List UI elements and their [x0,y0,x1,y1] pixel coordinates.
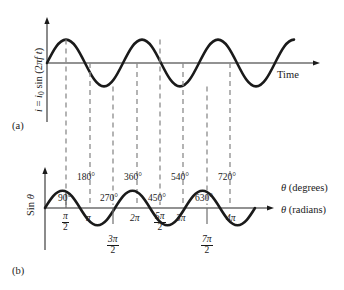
radian-denominator: 2 [154,222,166,233]
panel-b-y-axis-label: Sin θ [26,194,37,216]
panel-a-y-axis-arrowhead [44,17,49,24]
degree-label-630: 630° [195,194,213,204]
radian-label-pi-over-2: π 2 [62,212,69,233]
panel-b-x-axis-arrowhead [267,205,274,210]
panel-b-x-axis-label-degrees: θ (degrees) [281,183,328,194]
radian-label-3pi-over-2: 3π 2 [107,235,119,256]
radian-label-5pi-over-2: 5π 2 [154,212,166,233]
radian-denominator: 2 [201,245,213,256]
radian-numerator: 5π [154,212,166,222]
panel-b-x-axis-label-radians: θ (radians) [281,205,326,216]
radian-numerator: 7π [201,235,213,245]
panel-a-x-axis-label: Time [277,70,299,81]
panel-b-tag: (b) [12,266,24,277]
radian-label-4pi: 4π [226,214,236,224]
panel-a-tag: (a) [12,121,24,132]
degree-label-540: 540° [171,173,189,183]
degree-label-720: 720° [218,173,236,183]
degree-label-360: 360° [124,173,142,183]
radian-denominator: 2 [107,245,119,256]
radian-numerator: 3π [107,235,119,245]
degree-label-90: 90° [58,194,71,204]
panel-a-y-axis-label: i = i0 sin (2πf t) [34,48,46,112]
radian-label-2pi: 2π [130,214,140,224]
radian-label-7pi-over-2: 7π 2 [201,235,213,256]
radian-numerator: π [62,212,69,222]
figure-canvas [0,0,344,290]
panel-b-y-axis-arrowhead [42,167,47,174]
sine-waveform-figure: i = i0 sin (2πf t) Time (a) Sin θ θ (deg… [0,0,344,290]
radian-denominator: 2 [62,222,69,233]
degree-label-270: 270° [100,194,118,204]
degree-label-180: 180° [77,173,95,183]
radian-label-3pi: 3π [176,214,186,224]
radian-label-pi: π [86,214,91,224]
degree-label-450: 450° [148,194,166,204]
panel-a-x-axis-arrowhead [313,60,320,65]
